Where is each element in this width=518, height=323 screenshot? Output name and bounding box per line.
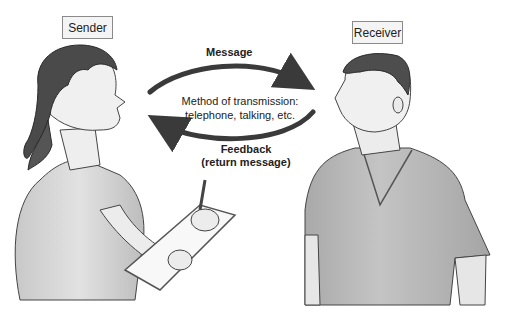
feedback-line-2: (return message) xyxy=(186,156,306,169)
transmission-line-1: Method of transmission: xyxy=(170,94,310,108)
sender-figure xyxy=(15,45,235,300)
communication-diagram: Sender Receiver Message Method of transm… xyxy=(0,0,518,323)
sender-label-text: Sender xyxy=(68,21,107,35)
receiver-label: Receiver xyxy=(352,21,403,44)
receiver-label-text: Receiver xyxy=(354,26,401,40)
transmission-line-2: telephone, talking, etc. xyxy=(170,108,310,122)
feedback-line-1: Feedback xyxy=(186,143,306,156)
message-arrow-icon xyxy=(150,66,298,92)
receiver-figure xyxy=(305,54,490,305)
sender-label: Sender xyxy=(62,16,113,39)
transmission-text: Method of transmission: telephone, talki… xyxy=(170,94,310,122)
feedback-label: Feedback (return message) xyxy=(186,143,306,169)
message-label: Message xyxy=(206,46,252,58)
